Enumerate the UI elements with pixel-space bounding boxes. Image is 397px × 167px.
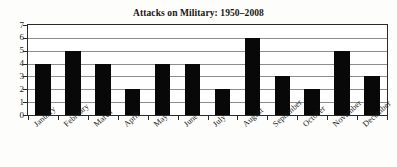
bar (185, 64, 201, 115)
y-axis-tick-mark (23, 51, 27, 52)
y-axis-tick-mark (23, 25, 27, 26)
chart-figure: Attacks on Military: 1950–2008 76543210J… (0, 0, 397, 167)
x-axis-tick-mark (327, 116, 328, 120)
x-axis-tick-mark (267, 116, 268, 120)
bar (215, 89, 231, 115)
gridline (28, 38, 387, 39)
bar (155, 64, 171, 115)
y-axis-tick-mark (23, 76, 27, 77)
x-axis-tick-mark (208, 116, 209, 120)
y-axis-tick-mark (23, 115, 27, 116)
gridline (28, 89, 387, 90)
y-axis-tick-mark (23, 38, 27, 39)
gridline (28, 51, 387, 52)
x-axis-tick-mark (297, 116, 298, 120)
y-axis-tick-label: 6 (6, 33, 24, 42)
x-axis-tick-mark (28, 116, 29, 120)
x-axis-tick-mark (178, 116, 179, 120)
y-axis-tick-label: 2 (6, 85, 24, 94)
x-axis-tick-mark (387, 116, 388, 120)
y-axis-tick-label: 4 (6, 59, 24, 68)
gridline (28, 76, 387, 77)
y-axis-tick-label: 0 (6, 111, 24, 120)
bar (65, 51, 81, 115)
x-axis-tick-mark (88, 116, 89, 120)
chart-title: Attacks on Military: 1950–2008 (0, 8, 397, 18)
y-axis-tick-mark (23, 64, 27, 65)
x-axis-tick-mark (357, 116, 358, 120)
y-axis-tick-mark (23, 102, 27, 103)
plot-area (27, 24, 388, 116)
y-axis-tick-label: 1 (6, 98, 24, 107)
x-axis-tick-mark (118, 116, 119, 120)
y-axis-tick-label: 3 (6, 72, 24, 81)
y-axis-tick-mark (23, 89, 27, 90)
x-axis-tick-mark (58, 116, 59, 120)
x-axis-tick-mark (148, 116, 149, 120)
gridline (28, 64, 387, 65)
x-axis-tick-mark (237, 116, 238, 120)
bar (245, 38, 261, 115)
y-axis-tick-label: 7 (6, 21, 24, 30)
y-axis-tick-label: 5 (6, 46, 24, 55)
